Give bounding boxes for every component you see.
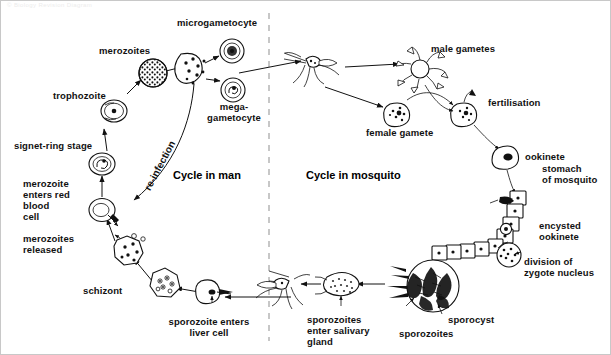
label-mega-gametocyte: mega- gametocyte	[206, 101, 262, 123]
fertilisation-cell	[451, 89, 477, 127]
label-fertilisation: fertilisation	[488, 97, 541, 108]
label-merozoites: merozoites	[99, 45, 150, 56]
figure-watermark: © Biology Revision Diagram	[7, 2, 92, 8]
label-schizont: schizont	[83, 285, 122, 296]
label-signet-ring-stage: signet-ring stage	[14, 140, 92, 151]
label-microgametocyte: microgametocyte	[177, 17, 257, 28]
mosquito-top	[284, 53, 339, 88]
section-title-cycle-in-mosquito: Cycle in mosquito	[306, 169, 401, 181]
signet-ring-cell	[89, 153, 115, 175]
label-sporozoite-enters-liver-cell: sporozoite enters liver cell	[161, 316, 257, 338]
label-encysted-ookinete: encysted ookinete	[539, 220, 603, 242]
malaria-life-cycle-figure: © Biology Revision Diagram	[0, 0, 611, 355]
female-gamete-cell	[384, 103, 410, 127]
stomach-wall-cells	[432, 191, 526, 260]
salivary-gland	[315, 273, 359, 296]
schizont-cell	[150, 268, 180, 297]
merozoites-released-cell	[114, 234, 145, 265]
mega-gametocyte-cell	[221, 78, 245, 102]
bursting-cell	[175, 53, 206, 84]
section-title-cycle-in-man: Cycle in man	[173, 169, 241, 181]
label-ookinete: ookinete	[525, 151, 565, 162]
trophozoite-cell	[101, 100, 127, 122]
label-sporozoites-enter-salivary-gland: sporozoites enter salivary gland	[307, 314, 393, 347]
label-stomach-of-mosquito: stomach of mosquito	[542, 163, 608, 185]
label-merozoites-released: merozoites released	[23, 233, 93, 255]
label-division-of-zygote-nucleus: division of zygote nucleus	[524, 256, 608, 278]
label-sporozoites: sporozoites	[399, 328, 453, 339]
ookinete-cell	[492, 146, 519, 169]
encysted-ookinete	[500, 223, 511, 234]
label-merozoite-enters-red-blood-cell: merozoite enters red blood cell	[23, 178, 81, 222]
microgametocyte-cell	[220, 39, 244, 63]
label-sporocyst: sporocyst	[448, 314, 494, 325]
sporocyst	[357, 260, 459, 312]
merozoites-ball	[139, 59, 167, 87]
merozoite-enters-rbc	[89, 199, 119, 227]
sporozoite-enters-liver-cell	[196, 280, 233, 304]
mosquito-bottom	[256, 271, 310, 309]
label-re-infection: re-infection	[142, 139, 177, 192]
label-female-gamete: female gamete	[366, 127, 433, 138]
division-of-zygote-nucleus-cell	[497, 242, 521, 267]
label-male-gametes: male gametes	[431, 43, 495, 54]
label-trophozoite: trophozoite	[53, 90, 106, 101]
